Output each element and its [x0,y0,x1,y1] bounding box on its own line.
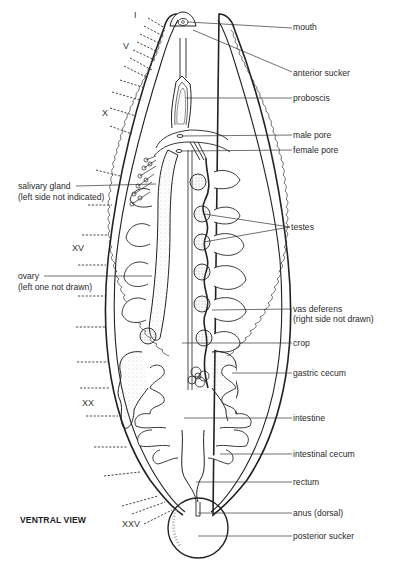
label-vas-deferens: vas deferens [293,304,342,314]
label-crop: crop [293,338,310,348]
view-title: VENTRAL VIEW [20,515,86,525]
label-ovary: ovary [18,271,39,281]
label-gastric-cecum: gastric cecum [293,368,346,378]
proboscis [171,38,191,128]
segment-V: V [123,41,129,51]
female-pore [176,150,182,153]
gastric-cecum [212,352,238,425]
label-salivary-gland-note: (left side not indicated) [18,192,104,202]
segment-XV: XV [72,243,84,253]
label-proboscis: proboscis [293,93,330,103]
segment-XX: XX [82,398,94,408]
label-mouth: mouth [293,22,317,32]
label-salivary-gland: salivary gland [18,181,71,191]
label-rectum: rectum [293,477,319,487]
label-intestinal-cecum: intestinal cecum [293,449,355,459]
label-testes: testes [291,222,314,232]
posterior-sucker [168,498,228,558]
ovary [149,150,178,340]
anus [196,502,200,516]
label-ovary-note: (left one not drawn) [18,282,92,292]
label-male-pore: male pore [293,130,331,140]
segment-XXV: XXV [122,519,140,529]
label-anus: anus (dorsal) [293,508,343,518]
label-vas-deferens-note: (right side not drawn) [293,314,374,324]
segment-X: X [102,108,108,118]
mouth [178,19,188,26]
label-posterior-sucker: posterior sucker [293,531,354,541]
rectum [182,430,196,502]
segment-I: I [134,10,137,20]
label-intestine: intestine [293,413,325,423]
label-female-pore: female pore [293,145,338,155]
label-anterior-sucker: anterior sucker [293,68,350,78]
